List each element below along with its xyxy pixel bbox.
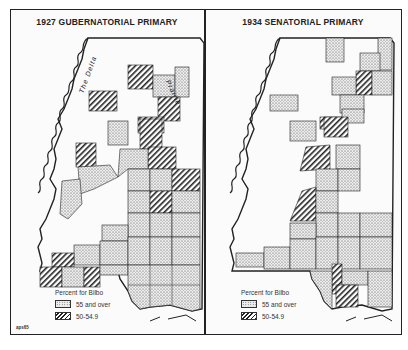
mississippi-map-1934	[206, 9, 400, 335]
map-panel-1927: 1927 GUBERNATORIAL PRIMARY	[10, 9, 204, 335]
mississippi-map-1927	[10, 9, 204, 335]
hatch-swatch-icon	[55, 312, 71, 320]
figure-code: aps65	[16, 325, 29, 330]
legend-item-dots: 55 and over	[55, 300, 110, 308]
dots-swatch-icon	[55, 300, 71, 308]
map-legend: Percent for Bilbo 55 and over 50-54.9	[55, 289, 110, 324]
legend-item-hatch: 50-54.9	[241, 312, 296, 320]
legend-title: Percent for Bilbo	[55, 289, 110, 296]
legend-label: 50-54.9	[262, 313, 284, 320]
legend-label: 55 and over	[76, 301, 110, 308]
hatch-swatch-icon	[241, 312, 257, 320]
legend-label: 50-54.9	[76, 313, 98, 320]
map-legend: Percent for Bilbo 55 and over 50-54.9	[241, 289, 296, 324]
legend-label: 55 and over	[262, 301, 296, 308]
legend-item-hatch: 50-54.9	[55, 312, 110, 320]
legend-title: Percent for Bilbo	[241, 289, 296, 296]
legend-item-dots: 55 and over	[241, 300, 296, 308]
dots-swatch-icon	[241, 300, 257, 308]
map-panel-1934: 1934 SENATORIAL PRIMARY	[206, 9, 400, 335]
